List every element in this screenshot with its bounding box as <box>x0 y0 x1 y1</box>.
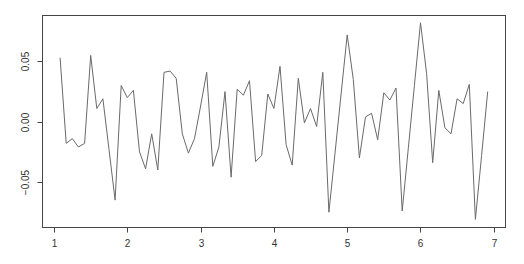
x-tick-label: 6 <box>418 238 424 249</box>
x-tick-label: 3 <box>199 238 205 249</box>
line-chart: 1234567 0.050.00−0.05 <box>0 0 524 264</box>
y-tick-label: −0.05 <box>20 169 31 195</box>
y-tick-label: 0.00 <box>20 112 31 132</box>
series-line <box>60 23 488 220</box>
y-axis: 0.050.00−0.05 <box>20 51 43 195</box>
x-tick-label: 7 <box>492 238 498 249</box>
x-axis: 1234567 <box>52 228 498 249</box>
x-tick-label: 1 <box>52 238 58 249</box>
y-tick-label: 0.05 <box>20 51 31 71</box>
x-tick-label: 4 <box>272 238 278 249</box>
x-tick-label: 5 <box>345 238 351 249</box>
x-tick-label: 2 <box>125 238 131 249</box>
